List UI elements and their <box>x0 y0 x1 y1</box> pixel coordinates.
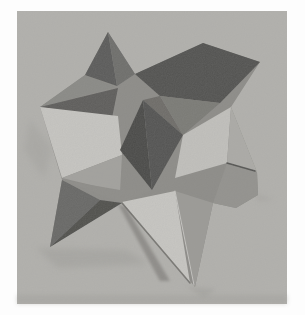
polyhedron-photograph <box>0 0 305 315</box>
scanned-photo-print <box>0 0 305 315</box>
film-grain-overlay <box>17 11 287 304</box>
